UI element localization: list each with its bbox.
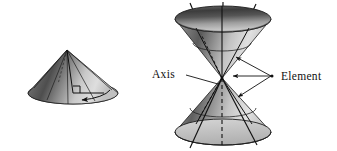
- figure-container: Axis Element: [0, 0, 337, 151]
- double-cone-vertex: [220, 76, 223, 79]
- cone-diagram: Axis Element: [0, 0, 337, 151]
- double-cone-group: [175, 2, 271, 148]
- axis-label: Axis: [152, 68, 175, 80]
- single-cone-lateral-surface: [28, 50, 118, 104]
- upper-nappe-rim-ellipse: [175, 6, 271, 32]
- element-leader-arrows: [233, 57, 271, 97]
- element-label: Element: [281, 70, 322, 82]
- element-leader-origin-dot: [271, 75, 274, 78]
- single-cone-group: [28, 50, 118, 104]
- axis-leader-line: [186, 75, 218, 84]
